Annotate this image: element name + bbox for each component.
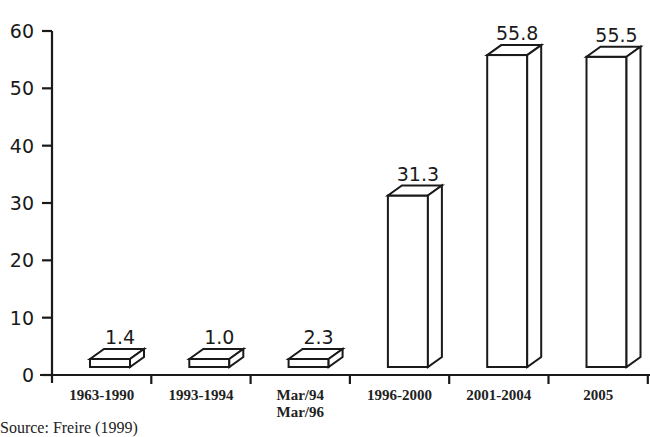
bar (289, 349, 343, 367)
bar-value-label: 55.5 (595, 24, 637, 46)
x-tick-label: 1993-1994 (168, 387, 233, 403)
x-tick-label: Mar/94 (277, 387, 325, 403)
source-caption: Source: Freire (1999) (0, 419, 138, 437)
bar-side (428, 186, 442, 367)
bar-front (189, 359, 229, 367)
bar (189, 349, 243, 367)
bar-front (388, 196, 428, 367)
x-tick-label: 2001-2004 (466, 387, 531, 403)
x-tick-label: 1963-1990 (69, 387, 134, 403)
bar-value-label: 1.4 (105, 326, 135, 348)
bar-value-label: 55.8 (496, 22, 538, 44)
bar-value-label: 31.3 (397, 163, 439, 185)
y-tick-label: 10 (10, 307, 34, 329)
bar (388, 186, 442, 367)
x-tick-label: Mar/96 (277, 404, 325, 420)
bar-value-label: 1.0 (204, 326, 234, 348)
y-tick-label: 50 (10, 77, 34, 99)
bar-value-label: 2.3 (303, 326, 333, 348)
bar-front (587, 57, 627, 367)
y-tick-label: 0 (22, 364, 34, 386)
x-tick-label: 2005 (583, 387, 613, 403)
bar-front (90, 359, 130, 367)
bar (90, 349, 144, 367)
bar (487, 45, 541, 367)
y-tick-label: 30 (10, 192, 34, 214)
bar-side (527, 45, 541, 367)
bar (587, 47, 641, 367)
bar-front (487, 55, 527, 367)
bar-front (289, 359, 329, 367)
bar-side (627, 47, 641, 367)
y-tick-label: 40 (10, 135, 34, 157)
y-tick-label: 60 (10, 20, 34, 42)
x-tick-label: 1996-2000 (367, 387, 432, 403)
y-tick-label: 20 (10, 249, 34, 271)
